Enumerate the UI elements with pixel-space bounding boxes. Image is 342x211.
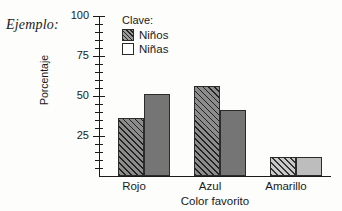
bar-amarillo-ninas: [296, 157, 322, 176]
chart-screenshot: Ejemplo: 100 75 50 25 Porcentaje: [0, 0, 342, 211]
bar-azul-ninos: [194, 86, 220, 176]
bar-chart: 100 75 50 25 Porcentaje Rojo Azul Amaril…: [0, 0, 342, 211]
legend-item-ninas: Niñas: [122, 43, 168, 55]
y-axis-label-100: 100: [49, 10, 89, 21]
bar-rojo-ninos: [118, 118, 144, 176]
legend-title: Clave:: [122, 14, 168, 26]
y-axis-label-75: 75: [49, 50, 89, 61]
x-axis-label-azul: Azul: [180, 180, 240, 192]
white-square-icon: [122, 43, 134, 55]
y-axis-label-50: 50: [49, 90, 89, 101]
bar-rojo-ninas: [144, 94, 170, 176]
x-axis-label-amarillo: Amarillo: [256, 180, 316, 192]
bar-amarillo-ninos: [270, 157, 296, 176]
legend-label-ninos: Niños: [139, 29, 168, 41]
y-axis-title: Porcentaje: [38, 25, 50, 135]
x-axis-label-rojo: Rojo: [104, 180, 164, 192]
legend: Clave: Niños Niñas: [122, 14, 168, 57]
legend-item-ninos: Niños: [122, 29, 168, 41]
y-axis-label-25: 25: [49, 130, 89, 141]
hatched-square-icon: [122, 29, 134, 41]
bar-azul-ninas: [220, 110, 246, 176]
legend-label-ninas: Niñas: [139, 43, 168, 55]
x-axis-title: Color favorito: [100, 195, 330, 207]
